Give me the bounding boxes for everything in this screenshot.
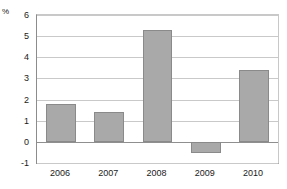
y-tick-label: 6	[24, 11, 29, 20]
bars-layer	[37, 15, 278, 163]
bar-2009	[191, 142, 221, 154]
x-tick-label-2010: 2010	[229, 168, 277, 179]
y-tick-label: 2	[24, 96, 29, 105]
x-tick-label-2009: 2009	[181, 168, 229, 179]
bar-chart: % 6543210-1 20062007200820092010	[0, 0, 287, 189]
x-tick-label-2006: 2006	[36, 168, 84, 179]
x-axis-tick-labels: 20062007200820092010	[36, 168, 279, 182]
bar-2006	[46, 104, 76, 142]
y-tick-label: 0	[24, 138, 29, 147]
plot-area	[36, 14, 279, 164]
y-tick-label: 4	[24, 53, 29, 62]
y-axis-tick-labels: 6543210-1	[0, 0, 33, 189]
x-tick-label-2008: 2008	[132, 168, 180, 179]
bar-2008	[143, 30, 173, 142]
bar-2007	[94, 112, 124, 142]
bar-2010	[239, 70, 269, 142]
y-tick-label: 1	[24, 117, 29, 126]
y-tick-label: 3	[24, 74, 29, 83]
y-tick-label: -1	[21, 159, 29, 168]
y-tick-label: 5	[24, 32, 29, 41]
x-tick-label-2007: 2007	[84, 168, 132, 179]
gridline-neg1	[37, 163, 278, 164]
